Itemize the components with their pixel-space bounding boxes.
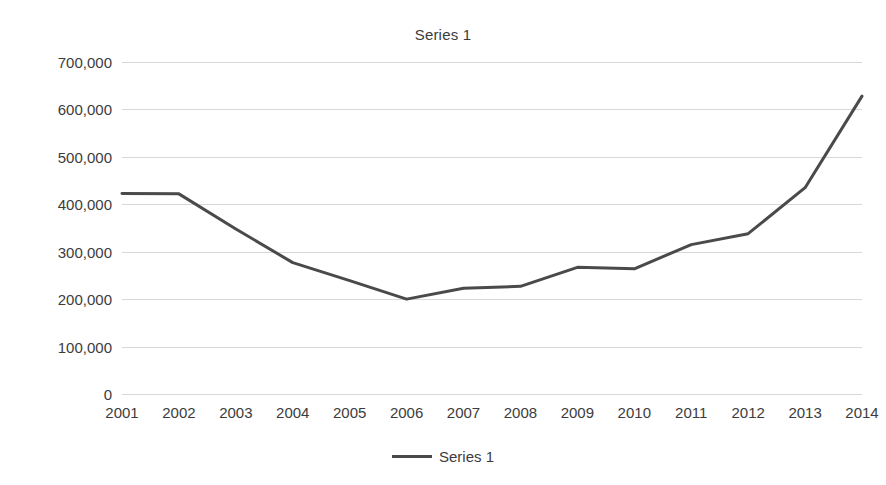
x-axis-tick-label: 2004	[276, 404, 309, 421]
legend-line-swatch-icon	[392, 455, 432, 458]
x-axis-tick-label: 2014	[845, 404, 878, 421]
y-axis-tick-label: 300,000	[0, 243, 112, 260]
series-line-layer	[122, 62, 862, 394]
chart-title: Series 1	[0, 26, 886, 43]
plot-area	[122, 62, 862, 394]
y-axis-tick-label: 100,000	[0, 338, 112, 355]
x-axis-tick-label: 2009	[561, 404, 594, 421]
y-axis-labels: 700,000600,000500,000400,000300,000200,0…	[0, 62, 112, 394]
x-axis-tick-label: 2010	[618, 404, 651, 421]
y-axis-tick-label: 600,000	[0, 101, 112, 118]
legend-item-series-1: Series 1	[392, 448, 494, 465]
gridline	[122, 394, 862, 395]
y-axis-tick-label: 500,000	[0, 148, 112, 165]
x-axis-tick-label: 2013	[788, 404, 821, 421]
legend-label: Series 1	[439, 448, 494, 465]
x-axis-tick-label: 2012	[731, 404, 764, 421]
y-axis-tick-label: 700,000	[0, 54, 112, 71]
x-axis-tick-label: 2003	[219, 404, 252, 421]
line-chart: Series 1 700,000600,000500,000400,000300…	[0, 0, 886, 485]
y-axis-tick-label: 0	[0, 386, 112, 403]
series-line-series-1	[122, 96, 862, 299]
x-axis-tick-label: 2011	[675, 404, 707, 421]
x-axis-tick-label: 2007	[447, 404, 480, 421]
x-axis-tick-label: 2002	[162, 404, 195, 421]
y-axis-tick-label: 200,000	[0, 291, 112, 308]
x-axis-tick-label: 2006	[390, 404, 423, 421]
y-axis-tick-label: 400,000	[0, 196, 112, 213]
chart-legend: Series 1	[0, 448, 886, 465]
x-axis-tick-label: 2008	[504, 404, 537, 421]
x-axis-tick-label: 2001	[105, 404, 138, 421]
x-axis-tick-label: 2005	[333, 404, 366, 421]
x-axis-labels: 2001200220032004200520062007200820092010…	[122, 404, 862, 426]
